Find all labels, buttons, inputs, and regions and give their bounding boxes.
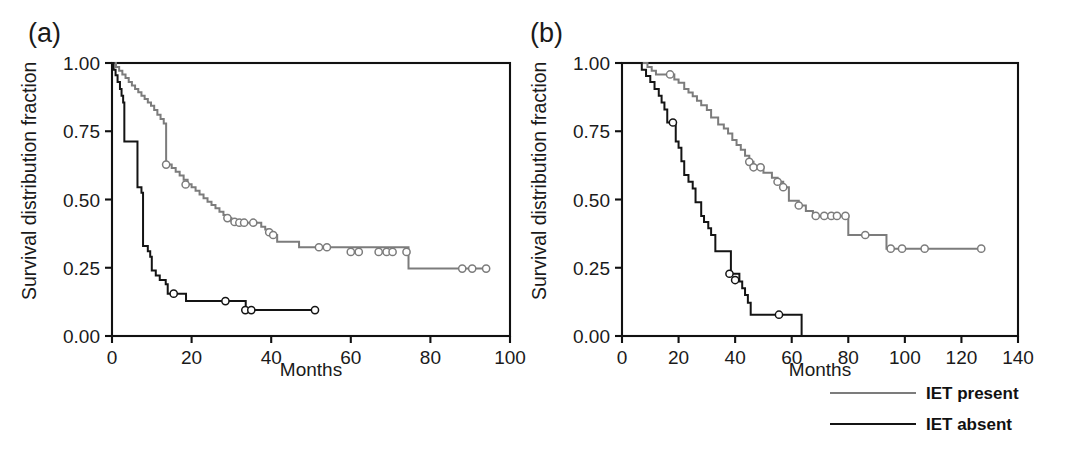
panel-a-y-axis-title: Survival distribution fraction [18,62,40,300]
censor-mark [163,161,170,168]
censor-mark [389,248,396,255]
censor-mark [224,214,231,221]
censor-mark [315,244,322,251]
y-tick-label: 0.75 [63,121,100,142]
censor-mark [403,248,410,255]
panel-b-plot-frame [622,63,1018,336]
x-tick-label: 120 [946,347,978,368]
panel-b: (b) Survival distribution fraction Month… [528,18,1034,380]
y-tick-label: 0.25 [573,258,610,279]
panel-a: (a) Survival distribution fraction Month… [18,18,526,380]
y-tick-label: 0.50 [573,190,610,211]
censor-mark [355,248,362,255]
censor-mark [170,290,177,297]
censor-mark [750,164,757,171]
x-tick-label: 140 [1002,347,1034,368]
censor-mark [375,248,382,255]
censor-mark [270,231,277,238]
y-tick-label: 0.00 [573,326,610,347]
censor-mark [812,212,819,219]
x-tick-label: 100 [889,347,921,368]
y-tick-label: 0.50 [63,190,100,211]
censor-mark [842,212,849,219]
legend-item-iet-absent: IET absent [830,415,1012,434]
censor-mark [775,311,782,318]
legend-item-iet-present: IET present [830,384,1019,403]
censor-mark [862,231,869,238]
censor-mark [248,306,255,313]
censor-mark [780,184,787,191]
x-tick-label: 0 [617,347,628,368]
censor-mark [732,276,739,283]
km-curve-iet-absent [112,63,315,310]
x-tick-label: 80 [420,347,441,368]
panel-a-series-group [112,63,490,314]
panel-a-label: (a) [28,18,61,48]
x-tick-label: 80 [838,347,859,368]
censor-mark [978,245,985,252]
y-tick-label: 0.25 [63,258,100,279]
x-tick-label: 100 [494,347,526,368]
censor-mark [347,248,354,255]
censor-mark [921,245,928,252]
x-tick-label: 40 [725,347,746,368]
censor-mark [833,212,840,219]
km-curve-iet-absent [622,63,802,336]
censor-mark [726,270,733,277]
y-tick-label: 0.00 [63,326,100,347]
x-tick-label: 60 [340,347,361,368]
censor-mark [887,245,894,252]
censor-mark [182,181,189,188]
censor-mark [669,119,676,126]
censor-mark [250,219,257,226]
x-tick-label: 40 [261,347,282,368]
x-tick-label: 20 [668,347,689,368]
panel-a-y-ticks: 0.000.250.500.751.00 [63,53,112,347]
legend: IET present IET absent [830,384,1019,434]
censor-mark [483,265,490,272]
censor-mark [241,219,248,226]
kaplan-meier-figure: (a) Survival distribution fraction Month… [0,0,1067,458]
y-tick-label: 1.00 [573,53,610,74]
censor-mark [323,244,330,251]
censor-mark [795,202,802,209]
censor-mark [757,164,764,171]
censor-mark [311,306,318,313]
legend-label-iet-present: IET present [926,384,1019,403]
censor-mark [821,212,828,219]
censor-mark [469,265,476,272]
panel-b-series-group [622,63,985,336]
censor-mark [666,71,673,78]
x-tick-label: 0 [107,347,118,368]
km-curve-iet-present [622,63,981,249]
x-tick-label: 20 [181,347,202,368]
panel-a-x-axis-title: Months [280,359,342,380]
panel-b-y-ticks: 0.000.250.500.751.00 [573,53,622,347]
panel-b-y-axis-title: Survival distribution fraction [528,62,550,300]
y-tick-label: 0.75 [573,121,610,142]
x-tick-label: 60 [781,347,802,368]
censor-mark [222,297,229,304]
legend-label-iet-absent: IET absent [926,415,1012,434]
figure-container: (a) Survival distribution fraction Month… [0,0,1067,458]
censor-mark [459,265,466,272]
censor-mark [898,245,905,252]
panel-b-label: (b) [530,18,563,48]
y-tick-label: 1.00 [63,53,100,74]
